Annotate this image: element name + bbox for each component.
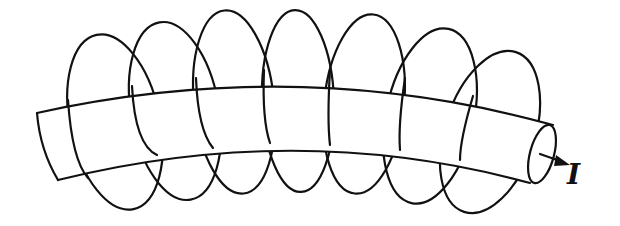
diagram-canvas: I bbox=[0, 0, 620, 226]
conductor-diagram bbox=[0, 0, 620, 226]
conductor bbox=[37, 70, 561, 186]
current-label: I bbox=[567, 158, 580, 191]
